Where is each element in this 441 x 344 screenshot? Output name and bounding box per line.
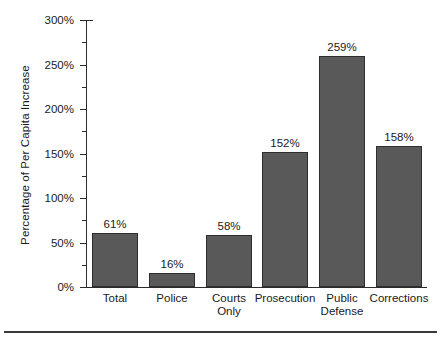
bar-chart: Percentage of Per Capita Increase 0%50%1… <box>0 0 441 344</box>
y-tick-label: 200% <box>0 103 74 115</box>
y-tick-label: 300% <box>0 14 74 26</box>
y-tick-label: 250% <box>0 59 74 71</box>
bar-value-label: 16% <box>137 258 207 271</box>
bar-value-label: 259% <box>307 41 377 54</box>
y-tick-major <box>80 154 87 155</box>
bar <box>376 146 422 287</box>
y-tick-major <box>80 243 87 244</box>
bar <box>319 56 365 287</box>
bar <box>262 152 308 287</box>
bar <box>149 273 195 287</box>
x-tick-label-line2: Only <box>187 305 271 318</box>
y-tick-minor <box>82 176 87 177</box>
y-tick-minor <box>82 87 87 88</box>
bar <box>206 235 252 287</box>
bar-value-label: 61% <box>80 218 150 231</box>
y-axis-top-stub <box>86 20 93 21</box>
y-tick-label: 0% <box>0 281 74 293</box>
y-tick-minor <box>82 131 87 132</box>
bar <box>92 233 138 287</box>
y-tick-major <box>80 198 87 199</box>
y-tick-major <box>80 287 87 288</box>
x-axis-line <box>86 287 427 288</box>
y-tick-minor <box>82 42 87 43</box>
y-tick-label: 100% <box>0 192 74 204</box>
bar-value-label: 58% <box>194 220 264 233</box>
bar-value-label: 158% <box>364 131 434 144</box>
y-tick-minor <box>82 265 87 266</box>
y-tick-major <box>80 65 87 66</box>
y-tick-major <box>80 20 87 21</box>
y-tick-label: 50% <box>0 237 74 249</box>
bar-value-label: 152% <box>250 137 320 150</box>
y-tick-label: 150% <box>0 148 74 160</box>
y-tick-major <box>80 109 87 110</box>
x-tick-label-line2: Defense <box>300 305 384 318</box>
footer-rule <box>4 331 437 333</box>
x-tick-label: Corrections <box>357 292 441 305</box>
